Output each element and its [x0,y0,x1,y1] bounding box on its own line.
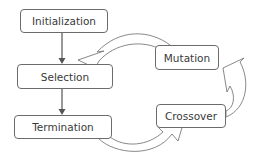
node-selection: Selection [17,64,113,89]
node-crossover-label: Crossover [165,110,217,122]
arrow-initialization-to-selection [59,33,66,64]
node-mutation-label: Mutation [164,52,210,64]
node-crossover: Crossover [156,104,226,128]
node-selection-label: Selection [41,71,89,83]
node-mutation: Mutation [155,45,219,70]
curved-arrow-crossover-to-mutation [223,58,246,117]
node-initialization-label: Initialization [32,15,96,27]
node-termination-label: Termination [32,121,94,133]
node-initialization: Initialization [20,9,108,33]
arrow-selection-to-termination [59,89,66,115]
node-termination: Termination [14,115,112,139]
